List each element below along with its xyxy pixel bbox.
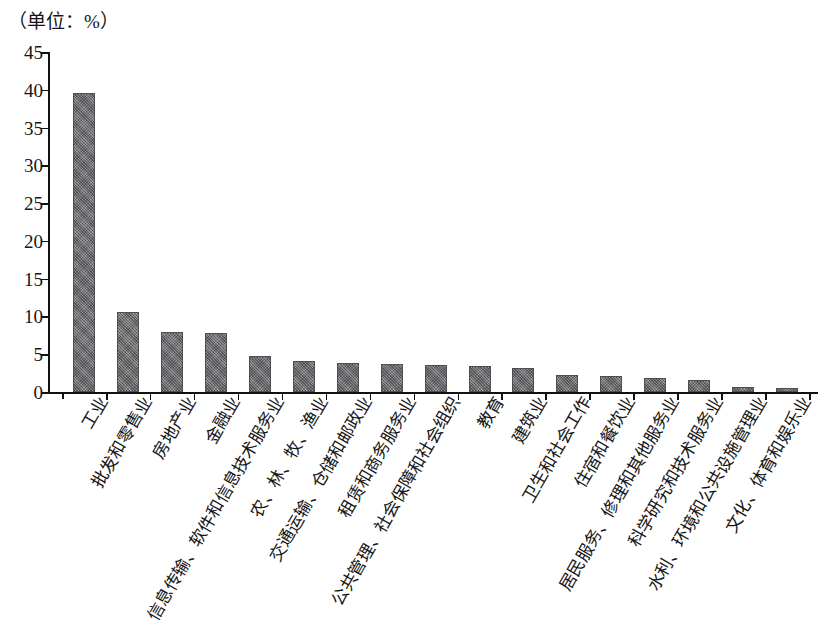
y-axis-tick-label: 25: [24, 194, 43, 213]
bar-chart: （单位：%） 051015202530354045 工业批发和零售业房地产业金融…: [0, 0, 825, 626]
y-axis-tick-label: 15: [24, 269, 43, 288]
bar: [776, 388, 798, 392]
y-axis-tick-label: 0: [34, 383, 44, 402]
x-axis-labels: 工业批发和零售业房地产业金融业信息传输、软件和信息技术服务业农、林、牧、渔业交通…: [48, 394, 825, 626]
bar: [205, 333, 227, 392]
bar: [73, 93, 95, 392]
bar: [425, 365, 447, 392]
bar: [293, 361, 315, 392]
bar: [600, 376, 622, 392]
bar: [161, 332, 183, 392]
y-axis-tick-label: 40: [24, 80, 43, 99]
unit-caption: （单位：%）: [8, 6, 119, 33]
bar: [512, 368, 534, 392]
x-axis-label-text: 房地产业: [150, 394, 199, 462]
x-axis-label: 房地产业: [150, 394, 199, 462]
y-axis-line: [48, 52, 50, 393]
x-axis-label: 文化、体育和娱乐业: [723, 394, 815, 535]
bar: [556, 375, 578, 392]
bar: [732, 387, 754, 392]
bar: [249, 356, 271, 392]
bar: [381, 364, 403, 392]
y-axis-tick-label: 20: [24, 231, 43, 250]
bar: [688, 380, 710, 392]
x-axis-label: 建筑业: [510, 394, 551, 447]
x-axis-label-text: 建筑业: [510, 394, 551, 447]
x-axis-label-text: 教育: [475, 394, 507, 432]
x-axis-label-text: 文化、体育和娱乐业: [723, 394, 815, 535]
x-axis-label: 工业: [79, 394, 111, 432]
y-axis-tick-label: 5: [34, 345, 44, 364]
x-axis-label: 金融业: [202, 394, 243, 447]
bar: [117, 312, 139, 392]
x-axis-label-text: 工业: [79, 394, 111, 432]
y-axis-tick-label: 10: [24, 307, 43, 326]
bar: [644, 378, 666, 392]
y-axis-tick-label: 30: [24, 156, 43, 175]
y-axis-tick-label: 45: [24, 43, 43, 62]
plot-area: 051015202530354045: [48, 52, 818, 392]
y-axis-tick-label: 35: [24, 118, 43, 137]
x-axis-label: 教育: [475, 394, 507, 432]
x-axis-label-text: 金融业: [202, 394, 243, 447]
bar: [469, 366, 491, 392]
bar: [337, 363, 359, 392]
